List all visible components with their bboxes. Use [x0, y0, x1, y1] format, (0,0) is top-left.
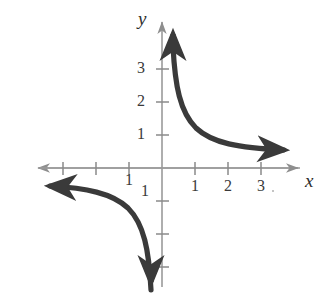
x-tick-label-2: 2 — [220, 177, 236, 195]
y-tick-label-2: 2 — [133, 92, 149, 110]
y-tick-label-1: 1 — [133, 125, 149, 143]
graph-figure: y x 3 2 1 1 1 1 2 3 — [0, 0, 326, 293]
x-tick-label-3: 3 — [253, 177, 269, 195]
plot-canvas — [0, 0, 326, 293]
y-axis-label: y — [138, 8, 146, 30]
y-tick-label-3: 3 — [133, 59, 149, 77]
x-tick-label-neg1: 1 — [121, 171, 137, 189]
y-tick-label-neg1: 1 — [137, 182, 153, 200]
x-axis-label: x — [305, 170, 313, 192]
x-tick-label-1: 1 — [187, 177, 203, 195]
curve-branch-negative — [50, 186, 151, 290]
scan-speck — [272, 190, 274, 192]
curve-branch-positive — [173, 34, 284, 150]
